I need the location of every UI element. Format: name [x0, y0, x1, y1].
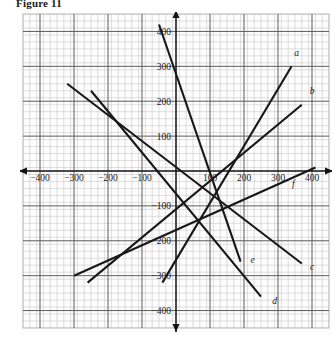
- line-label-b: b: [310, 86, 315, 96]
- figure-title: Figure 11: [16, 0, 62, 9]
- y-tick-label: 400: [157, 27, 172, 37]
- x-tick-label: 100: [203, 173, 218, 183]
- x-tick-label: 400: [305, 173, 320, 183]
- y-tick-label: −300: [151, 271, 171, 281]
- x-tick-label: 300: [271, 173, 286, 183]
- x-tick-label: −400: [30, 173, 50, 183]
- y-tick-label: −200: [151, 236, 171, 246]
- x-tick-label: −200: [98, 173, 118, 183]
- y-tick-label: −100: [151, 201, 171, 211]
- x-tick-label: −100: [132, 173, 152, 183]
- y-tick-label: 100: [157, 132, 172, 142]
- graph-plot-area: −400−300−200−100100200300400400300200100…: [20, 12, 332, 334]
- cartesian-grid-svg: −400−300−200−100100200300400400300200100…: [20, 12, 332, 334]
- y-tick-label: 300: [157, 62, 172, 72]
- line-label-a: a: [294, 48, 299, 58]
- line-label-e: e: [250, 255, 254, 265]
- line-label-d: d: [272, 296, 277, 306]
- y-tick-label: 200: [157, 97, 172, 107]
- y-tick-label: −400: [151, 306, 171, 316]
- x-tick-label: −300: [64, 173, 84, 183]
- x-tick-label: 200: [237, 173, 252, 183]
